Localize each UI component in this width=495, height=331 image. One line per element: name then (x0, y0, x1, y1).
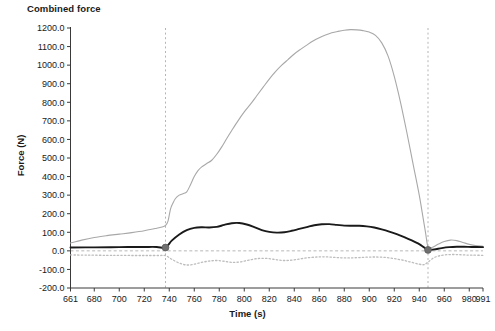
y-tick-label: 1000.0 (37, 60, 65, 70)
x-tick-label: 860 (312, 294, 327, 304)
x-tick-label: 840 (287, 294, 302, 304)
plot-area: -200.0-100.00.0100.0200.0300.0400.0500.0… (0, 0, 495, 331)
tick-labels-layer: -200.0-100.00.0100.0200.0300.0400.0500.0… (37, 23, 491, 304)
y-tick-label: 1200.0 (37, 23, 65, 33)
x-tick-label: 960 (437, 294, 452, 304)
y-tick-label: 700.0 (42, 116, 65, 126)
x-tick-label: 700 (112, 294, 127, 304)
y-tick-label: 1100.0 (38, 42, 65, 52)
data-point-marker-1 (425, 247, 432, 254)
x-tick-label: 920 (387, 294, 402, 304)
x-axis-label: Time (s) (0, 308, 495, 319)
y-tick-label: 400.0 (42, 172, 65, 182)
y-tick-label: 0.0 (52, 246, 65, 256)
y-tick-label: 800.0 (42, 98, 65, 108)
y-tick-label: 900.0 (42, 79, 65, 89)
data-point-marker-0 (162, 244, 169, 251)
x-tick-label: 740 (162, 294, 177, 304)
chart-figure: Combined force Force (N) -200.0-100.00.0… (0, 0, 495, 331)
x-tick-label: 820 (262, 294, 277, 304)
series-light-gray-solid (71, 30, 484, 249)
y-tick-label: 200.0 (42, 209, 65, 219)
x-tick-label: 780 (212, 294, 227, 304)
y-tick-label: -200.0 (39, 283, 65, 293)
x-tick-label: 800 (237, 294, 252, 304)
x-tick-label: 720 (137, 294, 152, 304)
y-tick-label: 100.0 (42, 228, 65, 238)
series-light-gray-dotted (71, 255, 484, 266)
y-tick-label: -100.0 (39, 265, 65, 275)
y-tick-label: 600.0 (42, 135, 65, 145)
x-tick-label: 900 (362, 294, 377, 304)
axes-layer (67, 27, 483, 292)
x-tick-label: 760 (187, 294, 202, 304)
grid-layer (71, 28, 484, 288)
y-tick-label: 300.0 (42, 190, 65, 200)
x-tick-label: 680 (87, 294, 102, 304)
point-markers-layer (162, 244, 431, 253)
x-tick-label: 940 (412, 294, 427, 304)
y-tick-label: 500.0 (42, 153, 65, 163)
x-tick-label: 880 (337, 294, 352, 304)
series-layer (71, 30, 484, 265)
x-tick-label: 661 (63, 294, 78, 304)
x-tick-label: 991 (475, 294, 490, 304)
series-black-solid (71, 223, 484, 250)
